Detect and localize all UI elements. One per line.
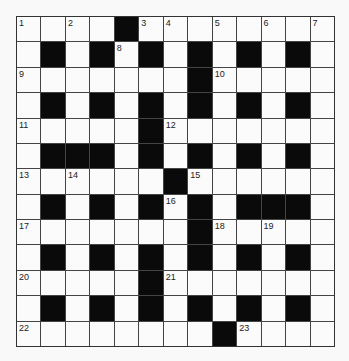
answer-cell[interactable]: [237, 220, 260, 244]
answer-cell[interactable]: [90, 68, 113, 92]
answer-cell[interactable]: 6: [262, 17, 285, 41]
answer-cell[interactable]: [237, 119, 260, 143]
answer-cell[interactable]: [139, 169, 162, 193]
answer-cell[interactable]: [311, 93, 334, 117]
answer-cell[interactable]: [17, 144, 40, 168]
answer-cell[interactable]: [213, 271, 236, 295]
answer-cell[interactable]: [262, 296, 285, 320]
answer-cell[interactable]: 4: [164, 17, 187, 41]
answer-cell[interactable]: [90, 17, 113, 41]
answer-cell[interactable]: [115, 68, 138, 92]
answer-cell[interactable]: 21: [164, 271, 187, 295]
answer-cell[interactable]: 11: [17, 119, 40, 143]
answer-cell[interactable]: [17, 93, 40, 117]
answer-cell[interactable]: [164, 144, 187, 168]
answer-cell[interactable]: 8: [115, 42, 138, 66]
answer-cell[interactable]: [115, 119, 138, 143]
answer-cell[interactable]: [164, 245, 187, 269]
answer-cell[interactable]: [115, 271, 138, 295]
answer-cell[interactable]: 7: [311, 17, 334, 41]
answer-cell[interactable]: [164, 93, 187, 117]
answer-cell[interactable]: 17: [17, 220, 40, 244]
answer-cell[interactable]: 22: [17, 322, 40, 346]
answer-cell[interactable]: [262, 119, 285, 143]
answer-cell[interactable]: [213, 245, 236, 269]
answer-cell[interactable]: [41, 271, 64, 295]
answer-cell[interactable]: [213, 169, 236, 193]
answer-cell[interactable]: [262, 93, 285, 117]
answer-cell[interactable]: [17, 195, 40, 219]
answer-cell[interactable]: [286, 68, 309, 92]
answer-cell[interactable]: [286, 169, 309, 193]
answer-cell[interactable]: 1: [17, 17, 40, 41]
answer-cell[interactable]: [237, 169, 260, 193]
answer-cell[interactable]: [66, 195, 89, 219]
answer-cell[interactable]: 10: [213, 68, 236, 92]
answer-cell[interactable]: [311, 271, 334, 295]
answer-cell[interactable]: [115, 144, 138, 168]
answer-cell[interactable]: [90, 271, 113, 295]
answer-cell[interactable]: [213, 119, 236, 143]
answer-cell[interactable]: [262, 271, 285, 295]
answer-cell[interactable]: [41, 119, 64, 143]
answer-cell[interactable]: 9: [17, 68, 40, 92]
answer-cell[interactable]: [41, 17, 64, 41]
answer-cell[interactable]: [139, 68, 162, 92]
answer-cell[interactable]: [213, 93, 236, 117]
answer-cell[interactable]: [66, 322, 89, 346]
answer-cell[interactable]: [66, 220, 89, 244]
answer-cell[interactable]: [188, 271, 211, 295]
answer-cell[interactable]: [237, 271, 260, 295]
answer-cell[interactable]: [115, 169, 138, 193]
answer-cell[interactable]: 14: [66, 169, 89, 193]
answer-cell[interactable]: [164, 220, 187, 244]
answer-cell[interactable]: [66, 271, 89, 295]
answer-cell[interactable]: [237, 17, 260, 41]
answer-cell[interactable]: [41, 169, 64, 193]
answer-cell[interactable]: [17, 296, 40, 320]
answer-cell[interactable]: [311, 144, 334, 168]
answer-cell[interactable]: [286, 119, 309, 143]
answer-cell[interactable]: 2: [66, 17, 89, 41]
answer-cell[interactable]: [41, 220, 64, 244]
answer-cell[interactable]: [188, 322, 211, 346]
answer-cell[interactable]: [66, 93, 89, 117]
answer-cell[interactable]: [164, 68, 187, 92]
answer-cell[interactable]: [213, 296, 236, 320]
answer-cell[interactable]: [311, 220, 334, 244]
answer-cell[interactable]: 13: [17, 169, 40, 193]
answer-cell[interactable]: 15: [188, 169, 211, 193]
answer-cell[interactable]: [41, 68, 64, 92]
answer-cell[interactable]: [311, 68, 334, 92]
answer-cell[interactable]: [262, 68, 285, 92]
answer-cell[interactable]: [311, 119, 334, 143]
answer-cell[interactable]: [90, 220, 113, 244]
answer-cell[interactable]: [90, 169, 113, 193]
answer-cell[interactable]: [311, 322, 334, 346]
answer-cell[interactable]: [164, 322, 187, 346]
answer-cell[interactable]: [286, 17, 309, 41]
answer-cell[interactable]: [90, 322, 113, 346]
answer-cell[interactable]: [115, 322, 138, 346]
answer-cell[interactable]: [311, 245, 334, 269]
answer-cell[interactable]: [115, 296, 138, 320]
answer-cell[interactable]: [262, 245, 285, 269]
answer-cell[interactable]: [213, 42, 236, 66]
answer-cell[interactable]: [213, 195, 236, 219]
answer-cell[interactable]: [286, 271, 309, 295]
answer-cell[interactable]: [311, 169, 334, 193]
answer-cell[interactable]: 3: [139, 17, 162, 41]
answer-cell[interactable]: [237, 68, 260, 92]
answer-cell[interactable]: 20: [17, 271, 40, 295]
answer-cell[interactable]: [115, 195, 138, 219]
answer-cell[interactable]: 18: [213, 220, 236, 244]
answer-cell[interactable]: [311, 195, 334, 219]
answer-cell[interactable]: [66, 245, 89, 269]
answer-cell[interactable]: [286, 220, 309, 244]
answer-cell[interactable]: [66, 42, 89, 66]
answer-cell[interactable]: [164, 42, 187, 66]
answer-cell[interactable]: [286, 322, 309, 346]
answer-cell[interactable]: 19: [262, 220, 285, 244]
answer-cell[interactable]: [115, 220, 138, 244]
answer-cell[interactable]: 12: [164, 119, 187, 143]
